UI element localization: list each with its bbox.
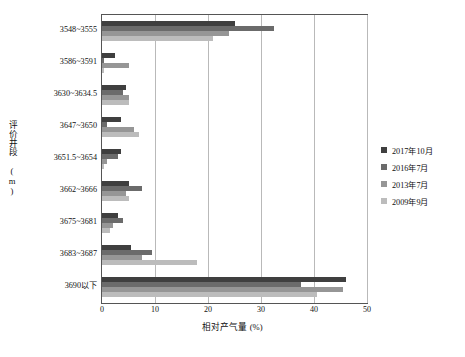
legend-label: 2017年10月 bbox=[392, 144, 433, 156]
bar bbox=[102, 260, 197, 265]
bar-group bbox=[102, 271, 367, 303]
bar bbox=[102, 36, 213, 41]
x-axis-tick-label: 10 bbox=[151, 305, 159, 314]
bar bbox=[102, 228, 110, 233]
legend-swatch-icon bbox=[381, 164, 387, 170]
bar-group bbox=[102, 111, 367, 143]
y-axis-category-label: 3586~3591 bbox=[60, 57, 97, 67]
legend-item[interactable]: 2017年10月 bbox=[381, 141, 465, 158]
bar bbox=[102, 164, 104, 169]
y-axis-category-label: 3675~3681 bbox=[60, 217, 97, 227]
bar-group bbox=[102, 15, 367, 47]
bar-chart: 评价井段 (m) 3548~35553586~35913630~3634.536… bbox=[0, 0, 465, 357]
y-axis-category-labels: 3548~35553586~35913630~3634.53647~365036… bbox=[0, 14, 97, 304]
legend: 2017年10月2016年7月2013年7月2009年9月 bbox=[381, 141, 465, 209]
legend-label: 2013年7月 bbox=[392, 178, 428, 190]
bar-group bbox=[102, 47, 367, 79]
x-axis-tick-label: 40 bbox=[310, 305, 318, 314]
gridline bbox=[367, 15, 368, 303]
y-axis-category-label: 3548~3555 bbox=[60, 25, 97, 35]
legend-label: 2009年9月 bbox=[392, 195, 428, 207]
bar bbox=[102, 292, 317, 297]
legend-swatch-icon bbox=[381, 198, 387, 204]
x-axis-tick-labels: 01020304050 bbox=[101, 305, 368, 319]
x-axis-tick-label: 30 bbox=[257, 305, 265, 314]
legend-item[interactable]: 2009年9月 bbox=[381, 192, 465, 209]
x-axis-tick-label: 20 bbox=[204, 305, 212, 314]
bar bbox=[102, 63, 129, 68]
legend-swatch-icon bbox=[381, 181, 387, 187]
bar-group bbox=[102, 175, 367, 207]
bar-group bbox=[102, 79, 367, 111]
bar bbox=[102, 196, 129, 201]
plot-area bbox=[101, 14, 368, 304]
y-axis-category-label: 3630~3634.5 bbox=[54, 89, 97, 99]
legend-label: 2016年7月 bbox=[392, 161, 428, 173]
legend-item[interactable]: 2013年7月 bbox=[381, 175, 465, 192]
y-axis-category-label: 3647~3650 bbox=[60, 121, 97, 131]
x-axis-title: 相对产气量 (%) bbox=[0, 320, 465, 332]
y-axis-category-label: 3690以下 bbox=[65, 281, 97, 291]
legend-item[interactable]: 2016年7月 bbox=[381, 158, 465, 175]
x-axis-tick-label: 50 bbox=[363, 305, 371, 314]
y-axis-category-label: 3662~3666 bbox=[60, 185, 97, 195]
x-axis-tick-label: 0 bbox=[100, 305, 104, 314]
bar-group bbox=[102, 207, 367, 239]
legend-swatch-icon bbox=[381, 147, 387, 153]
bar bbox=[102, 100, 129, 105]
y-axis-category-label: 3651.5~3654 bbox=[54, 153, 97, 163]
bar-group bbox=[102, 143, 367, 175]
y-axis-category-label: 3683~3687 bbox=[60, 249, 97, 259]
bar-group bbox=[102, 239, 367, 271]
bar bbox=[102, 132, 139, 137]
bar bbox=[102, 68, 104, 73]
